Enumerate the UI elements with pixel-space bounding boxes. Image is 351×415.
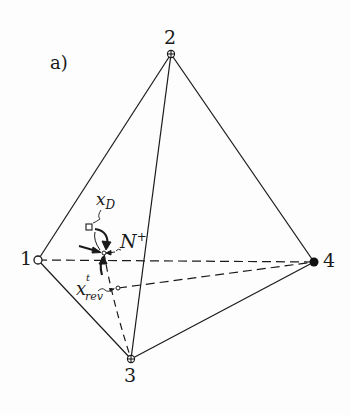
x-rev-label: x t rev: [76, 280, 86, 298]
x-d-leader: [93, 210, 101, 223]
panel-label: a): [50, 54, 68, 72]
vertex-4-filled-circle-icon: [310, 258, 319, 267]
x-rev-sup: t: [86, 273, 90, 283]
tetrahedron-diagram: a) 1 2 3 4 xD N+ x t rev: [0, 0, 351, 415]
n-plus-sup: +: [137, 230, 147, 244]
x-d-square-icon: [86, 224, 92, 230]
edge-2-4: [171, 54, 314, 262]
edge-1-2: [38, 54, 171, 260]
x-d-base: x: [96, 189, 106, 209]
edge-2-3: [131, 54, 171, 359]
edge-1-4-hidden: [38, 260, 314, 262]
vertex-4-label: 4: [323, 251, 335, 270]
n-plus-base: N: [120, 230, 137, 252]
vertex-1-label: 1: [20, 249, 32, 268]
x-rev-point-icon: [116, 286, 120, 290]
line-xrev-4-hidden: [118, 262, 314, 288]
vertex-2-label: 2: [164, 28, 176, 47]
x-rev-sub: rev: [85, 291, 103, 302]
edge-1-3: [38, 260, 131, 359]
x-d-label: xD: [96, 191, 115, 211]
vertex-1-open-circle-icon: [34, 256, 42, 264]
force-arrows-icon: [79, 229, 115, 275]
vertex-3-crossed-circle-icon: [127, 355, 134, 362]
n-plus-label: N+: [120, 231, 147, 251]
x-d-sub: D: [106, 198, 116, 212]
vertex-2-crossed-circle-icon: [167, 50, 174, 57]
vertex-3-label: 3: [124, 366, 136, 385]
edge-3-4: [131, 262, 314, 359]
curve-n-to-3-hidden: [104, 253, 131, 359]
